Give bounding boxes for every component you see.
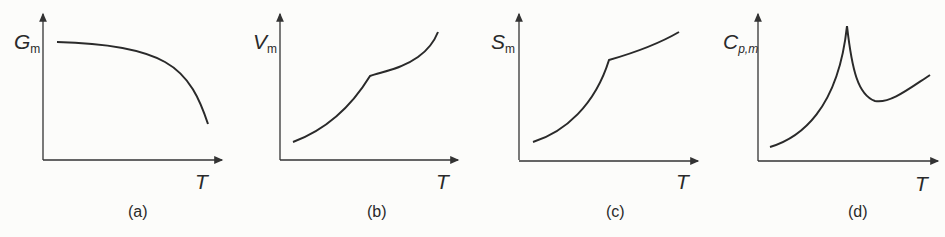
y-label-sub: m xyxy=(267,42,277,56)
panel-a xyxy=(43,14,222,160)
y-label-main: S xyxy=(491,30,505,53)
y-axis-label-a: Gm xyxy=(14,30,40,54)
y-label-sub: m xyxy=(30,42,40,56)
y-axis-label-b: Vm xyxy=(253,30,277,54)
caption-a: (a) xyxy=(128,203,148,221)
y-label-sub: m xyxy=(505,42,515,56)
x-axis-label-c: T xyxy=(676,170,689,194)
y-axis-label-c: Sm xyxy=(491,30,515,54)
caption-b: (b) xyxy=(367,203,387,221)
x-axis-label-a: T xyxy=(195,170,208,194)
y-label-main: C xyxy=(723,30,738,53)
x-axis-label-d: T xyxy=(915,172,928,196)
caption-d: (d) xyxy=(848,203,868,221)
y-label-sub: p,m xyxy=(738,42,758,56)
gibbs-curve xyxy=(57,42,208,124)
heat-capacity-curve xyxy=(770,26,930,147)
panel-c xyxy=(519,14,698,161)
panel-d xyxy=(758,14,938,161)
volume-curve xyxy=(293,32,438,142)
x-axis-label-b: T xyxy=(436,170,449,194)
entropy-curve xyxy=(533,32,679,142)
caption-c: (c) xyxy=(606,203,625,221)
y-label-main: V xyxy=(253,30,267,53)
y-axis-label-d: Cp,m xyxy=(723,30,758,54)
y-label-main: G xyxy=(14,30,30,53)
diagram-canvas xyxy=(0,0,945,237)
panel-b xyxy=(280,14,458,160)
